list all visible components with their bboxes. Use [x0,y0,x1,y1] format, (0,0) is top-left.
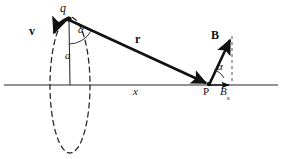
distance-a-label: a [65,50,71,61]
Bx-subscript-label: x [227,94,230,101]
angle-alpha-at-charge-label: α [78,24,84,35]
B-vector-label: B [211,29,219,41]
velocity-vector-label: v [29,25,35,37]
charge-dot [66,16,71,21]
r-vector [69,20,206,83]
field-point-label: P [203,86,209,97]
x-axis-label: x [133,86,138,97]
Bx-base-label: B [220,85,227,97]
Bx-component-label: Bx [220,86,230,100]
v-vector [54,19,69,33]
physics-figure: q v α a r x B α P Bx [0,0,282,159]
figure-canvas [0,0,282,159]
r-vector-label: r [135,33,140,45]
angle-alpha-at-point-label: α [217,61,223,72]
charge-label: q [60,2,66,14]
